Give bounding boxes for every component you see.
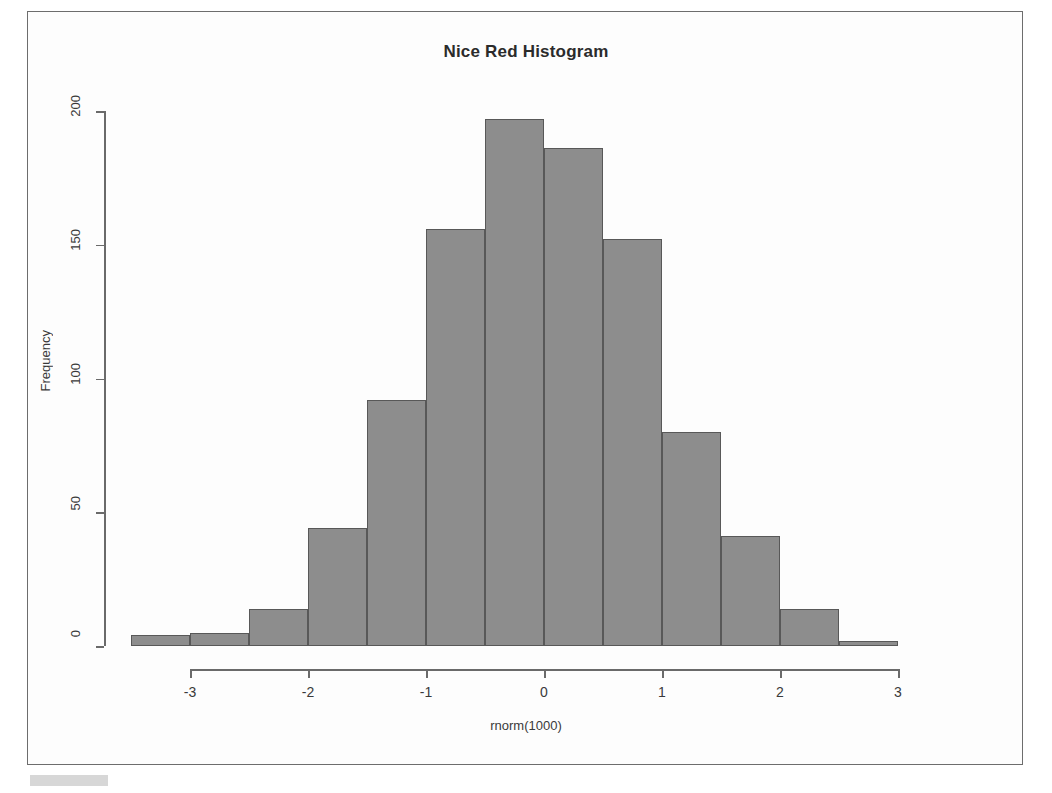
histogram-bar — [308, 528, 367, 646]
x-axis-title: rnorm(1000) — [0, 718, 1052, 733]
histogram-page: Nice Red Histogram 050100150200 Frequenc… — [0, 0, 1052, 793]
histogram-bar — [249, 609, 308, 646]
x-axis-tick — [426, 669, 428, 678]
x-axis-tick — [780, 669, 782, 678]
y-axis-tick-label: 200 — [68, 95, 1052, 117]
y-axis-tick-label: 0 — [68, 630, 1052, 637]
histogram-bar — [603, 239, 662, 646]
y-axis-title: Frequency — [38, 330, 53, 391]
histogram-bar — [662, 432, 721, 646]
plot-area: 050100150200 Frequency -3-2-10123 rnorm(… — [0, 0, 1052, 793]
x-axis-tick — [662, 669, 664, 678]
x-axis-tick-label: 1 — [658, 684, 666, 700]
x-axis-tick-label: -2 — [302, 684, 314, 700]
scan-artifact — [30, 775, 108, 786]
histogram-bar — [780, 609, 839, 646]
y-axis-tick — [96, 646, 104, 648]
x-axis-tick — [308, 669, 310, 678]
histogram-bar — [367, 400, 426, 646]
x-axis-tick — [544, 669, 546, 678]
histogram-bar — [426, 229, 485, 646]
x-axis-tick-label: -3 — [184, 684, 196, 700]
histogram-bar — [544, 148, 603, 646]
y-axis-tick-label: 50 — [68, 496, 1052, 510]
y-axis-tick-label: 100 — [68, 363, 1052, 385]
histogram-bar — [839, 641, 898, 646]
x-axis-tick-label: -1 — [420, 684, 432, 700]
x-axis-tick-label: 3 — [894, 684, 902, 700]
x-axis-tick — [190, 669, 192, 678]
x-axis-tick-label: 0 — [540, 684, 548, 700]
y-axis-tick — [96, 512, 104, 514]
x-axis-tick — [898, 669, 900, 678]
x-axis-tick-label: 2 — [776, 684, 784, 700]
y-axis-tick-label: 150 — [68, 229, 1052, 251]
